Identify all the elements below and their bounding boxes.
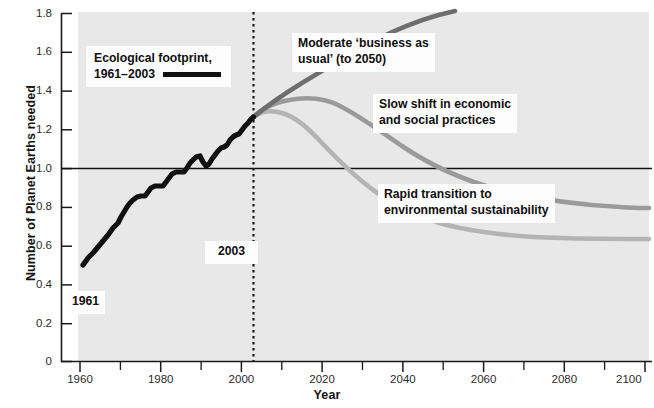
annotation-rapid-line-2: environmental sustainability	[384, 203, 549, 219]
x-tick-label-2080: 2080	[534, 373, 594, 385]
legend: Ecological footprint, 1961–2003	[86, 46, 231, 87]
annotation-rapid-line-1: Rapid transition to	[384, 187, 492, 201]
y-tick-label-0: 0	[18, 355, 52, 367]
y-tick-label-0-2: 0.2	[18, 317, 52, 329]
annotation-moderate-line-1: Moderate ‘business as	[298, 36, 429, 50]
x-tick-label-1980: 1980	[131, 373, 191, 385]
x-tick-label-2000: 2000	[211, 373, 271, 385]
chart-figure: 1.8 1.6 1.4 1.2 1.0 0.8 0.6 0.4 0.2 0 19…	[0, 0, 654, 408]
annotation-slow-line-1: Slow shift in economic	[379, 97, 511, 111]
x-tick-label-2060: 2060	[454, 373, 514, 385]
x-tick-label-2040: 2040	[373, 373, 433, 385]
annotation-2003: 2003	[205, 241, 258, 264]
x-axis-ticks-minor	[120, 362, 604, 370]
y-tick-label-1-8: 1.8	[18, 7, 52, 19]
annotation-slow-shift: Slow shift in economic and social practi…	[373, 94, 517, 133]
x-tick-label-2020: 2020	[292, 373, 352, 385]
annotation-moderate-line-2: usual’ (to 2050)	[298, 52, 429, 68]
x-tick-label-2100: 2100	[616, 373, 654, 385]
annotation-rapid-transition: Rapid transition to environmental sustai…	[378, 184, 555, 223]
x-axis-title: Year	[0, 388, 654, 402]
annotation-moderate-business-as-usual: Moderate ‘business as usual’ (to 2050)	[292, 33, 435, 72]
legend-swatch-footprint-line	[163, 72, 221, 77]
x-tick-label-1960: 1960	[50, 373, 110, 385]
annotation-slow-line-2: and social practices	[379, 113, 511, 129]
y-axis-title: Number of Planet Earths needed	[24, 53, 38, 313]
legend-line-2: 1961–2003	[94, 66, 155, 82]
annotation-1961: 1961	[66, 291, 105, 314]
legend-row-2: 1961–2003	[94, 66, 221, 82]
legend-line-1: Ecological footprint,	[94, 50, 221, 66]
